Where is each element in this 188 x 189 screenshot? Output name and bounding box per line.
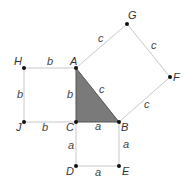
label-point-j: J	[15, 121, 22, 133]
point-h	[22, 66, 26, 70]
side-label-cb: a	[95, 120, 101, 132]
side-label-hj: b	[17, 88, 23, 100]
side-label-de: a	[95, 166, 101, 178]
label-point-g: G	[128, 9, 137, 21]
side-label-cd: a	[68, 139, 74, 151]
label-point-c: C	[66, 121, 74, 133]
label-point-a: A	[69, 55, 77, 67]
side-label-ab: c	[99, 83, 105, 95]
point-g	[125, 22, 129, 26]
side-label-ha: b	[47, 55, 53, 67]
side-label-fb: c	[144, 98, 150, 110]
point-j	[22, 120, 26, 124]
point-c	[74, 120, 78, 124]
pythagorean-diagram: A B C D E F G H J b b b b a a a a c c c …	[0, 0, 188, 189]
label-point-f: F	[173, 71, 181, 83]
side-label-ac: b	[67, 88, 73, 100]
point-e	[117, 164, 121, 168]
side-label-be: a	[123, 138, 129, 150]
point-f	[168, 75, 172, 79]
label-point-b: B	[121, 121, 128, 133]
side-label-ag: c	[98, 32, 104, 44]
label-point-e: E	[122, 165, 130, 177]
label-point-h: H	[14, 55, 22, 67]
side-label-gf: c	[151, 39, 157, 51]
side-label-jc: b	[42, 121, 48, 133]
point-d	[74, 164, 78, 168]
label-point-d: D	[66, 165, 74, 177]
right-triangle-abc	[76, 68, 119, 122]
